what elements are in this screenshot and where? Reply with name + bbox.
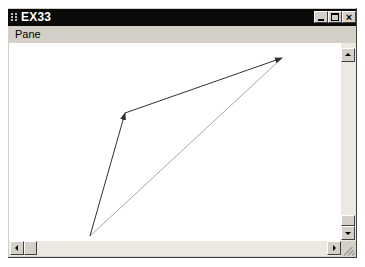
app-window: EX33 × Pane <box>8 8 357 258</box>
scroll-right-button[interactable] <box>327 241 341 255</box>
close-button[interactable]: × <box>342 11 356 23</box>
scroll-left-button[interactable] <box>10 241 24 255</box>
minimize-button[interactable] <box>314 11 328 23</box>
maximize-button[interactable] <box>328 11 342 23</box>
scroll-left-arrow-icon <box>15 245 18 251</box>
horizontal-scroll-thumb[interactable] <box>24 241 37 255</box>
scroll-right-arrow-icon <box>333 245 336 251</box>
title-bar[interactable]: EX33 × <box>8 9 356 26</box>
maximize-icon <box>331 13 339 21</box>
app-icon[interactable] <box>11 13 18 22</box>
vertical-scrollbar[interactable] <box>341 43 356 241</box>
scroll-up-button[interactable] <box>341 48 355 62</box>
vertical-scroll-thumb[interactable] <box>341 215 355 226</box>
menu-bar: Pane <box>8 26 356 43</box>
grey-line <box>90 58 282 236</box>
minimize-icon <box>318 19 324 21</box>
vector-drawing <box>9 43 341 241</box>
arrow-line-2 <box>125 58 282 113</box>
scroll-down-arrow-icon <box>345 232 351 235</box>
scroll-down-button[interactable] <box>341 226 355 240</box>
drawing-canvas[interactable] <box>9 43 341 241</box>
menu-item-pane[interactable]: Pane <box>15 28 41 40</box>
close-icon: × <box>346 11 352 23</box>
horizontal-scrollbar[interactable] <box>9 241 341 256</box>
window-title: EX33 <box>21 10 51 24</box>
size-grip[interactable] <box>341 241 356 256</box>
arrow-line-1 <box>90 113 125 236</box>
scroll-up-arrow-icon <box>345 53 351 56</box>
